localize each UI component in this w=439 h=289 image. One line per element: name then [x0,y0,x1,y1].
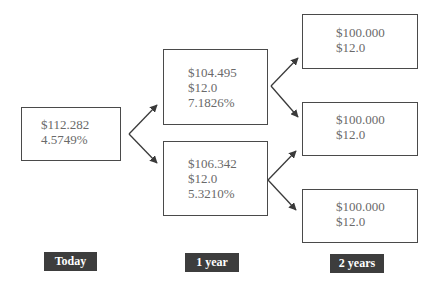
arrow-y1up-to-y2-mid [271,86,298,117]
period-label-today: Today [44,252,97,271]
node-year1-up-rate: 7.1826% [188,95,267,110]
node-year1-up-price: $104.495 [188,65,267,80]
node-year2-up-price: $100.000 [336,25,417,40]
arrow-today-to-y1-down [129,134,157,163]
node-year1-down-coupon: $12.0 [188,171,267,186]
node-year2-down-coupon: $12.0 [336,214,417,229]
arrow-today-to-y1-up [129,105,157,134]
node-year2-up: $100.000 $12.0 [302,14,418,69]
node-year1-up-coupon: $12.0 [188,80,267,95]
node-today-rate: 4.5749% [41,132,120,147]
node-year2-mid-price: $100.000 [336,112,417,127]
node-today: $112.282 4.5749% [21,107,121,161]
node-year2-down-price: $100.000 [336,199,417,214]
arrow-y1up-to-y2-up [271,58,298,86]
period-label-year2: 2 years [330,254,384,273]
node-year1-down-price: $106.342 [188,156,267,171]
node-year1-down: $106.342 $12.0 5.3210% [163,141,268,216]
node-year2-down: $100.000 $12.0 [302,189,418,243]
node-year1-up: $104.495 $12.0 7.1826% [163,49,268,125]
node-today-price: $112.282 [41,117,120,132]
period-label-year1: 1 year [185,253,239,272]
node-year2-mid: $100.000 $12.0 [302,102,418,156]
node-year2-mid-coupon: $12.0 [336,127,417,142]
node-year1-down-rate: 5.3210% [188,186,267,201]
arrow-y1down-to-y2-down [268,180,296,210]
arrow-y1down-to-y2-mid [268,151,296,180]
node-year2-up-coupon: $12.0 [336,40,417,55]
